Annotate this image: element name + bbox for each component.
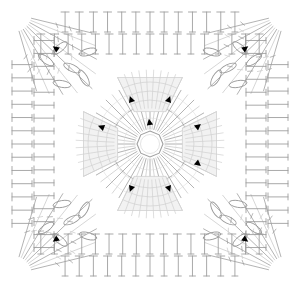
crochet-chart-svg [0, 0, 300, 288]
crochet-chart-canvas: Crochet Granny Square Stitch Chart [0, 0, 300, 288]
